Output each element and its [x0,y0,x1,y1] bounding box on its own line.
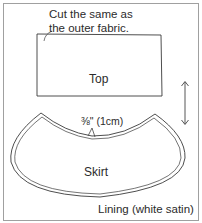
frame-border [4,4,199,221]
fabric-label: Lining (white satin) [98,204,194,216]
pattern-diagram: Cut the same as the outer fabric. Top ⅜"… [0,0,202,223]
cut-instruction-note: Cut the same as the outer fabric. [49,7,133,35]
note-line-1: Cut the same as [49,7,133,21]
top-piece-outline [37,34,162,96]
grain-line-arrow-icon [182,82,189,125]
top-piece-label: Top [89,73,108,85]
note-line-2: the outer fabric. [49,21,133,35]
seam-allowance-label: ⅜" (1cm) [81,116,123,127]
skirt-piece-label: Skirt [84,166,108,178]
skirt-stitch-line [15,117,181,194]
